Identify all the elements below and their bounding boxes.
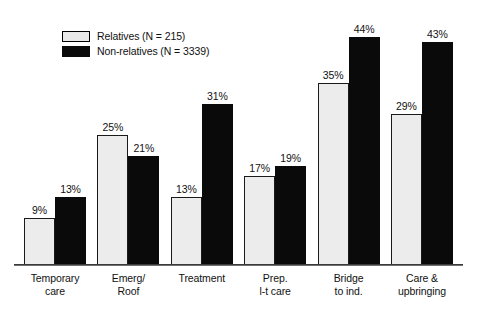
bar-value-label: 35% [323, 69, 344, 81]
grouped-bar-chart: Relatives (N = 215) Non-relatives (N = 3… [0, 0, 477, 312]
bar-group-temporary-care: 9% 13% [24, 8, 86, 264]
bar-value-label: 17% [249, 162, 270, 174]
bar-value-label: 13% [60, 183, 81, 195]
category-label-line: upbringing [391, 285, 453, 298]
plot-area: 9% 13% 25% 21% [18, 8, 459, 264]
category-label-emerg-roof: Emerg/ Roof [97, 272, 159, 297]
x-axis-baseline [14, 264, 463, 266]
bar-group-care-upbringing: 29% 43% [391, 8, 453, 264]
category-label-line: Prep. [244, 272, 306, 285]
bar-rect [275, 166, 306, 264]
category-label-temporary-care: Temporary care [24, 272, 86, 297]
bar-rect [24, 218, 55, 264]
bar-non-relatives-prep-lt-care: 19% [275, 8, 306, 264]
bar-non-relatives-emerg-roof: 21% [128, 8, 159, 264]
bar-rect [349, 37, 380, 264]
bar-rect [97, 135, 128, 264]
category-label-bridge-to-ind: Bridge to ind. [318, 272, 380, 297]
bar-value-label: 9% [32, 204, 47, 216]
category-label-line: Care & [391, 272, 453, 285]
category-label-prep-lt-care: Prep. l-t care [244, 272, 306, 297]
bar-rect [244, 176, 275, 264]
bar-non-relatives-care-upbringing: 43% [422, 8, 453, 264]
bar-non-relatives-bridge-to-ind: 44% [349, 8, 380, 264]
bar-value-label: 43% [427, 28, 448, 40]
bar-relatives-treatment: 13% [171, 8, 202, 264]
bar-rect [202, 104, 233, 264]
bar-rect [391, 114, 422, 264]
bar-value-label: 13% [176, 183, 197, 195]
bar-non-relatives-temporary-care: 13% [55, 8, 86, 264]
category-label-line: l-t care [244, 285, 306, 298]
bar-value-label: 19% [280, 152, 301, 164]
category-label-line: Roof [97, 285, 159, 298]
bar-relatives-bridge-to-ind: 35% [318, 8, 349, 264]
bar-relatives-temporary-care: 9% [24, 8, 55, 264]
bar-rect [318, 83, 349, 264]
bar-group-treatment: 13% 31% [171, 8, 233, 264]
bar-value-label: 21% [134, 142, 155, 154]
bar-group-prep-lt-care: 17% 19% [244, 8, 306, 264]
category-label-treatment: Treatment [171, 272, 233, 297]
bar-relatives-care-upbringing: 29% [391, 8, 422, 264]
bar-relatives-prep-lt-care: 17% [244, 8, 275, 264]
bar-non-relatives-treatment: 31% [202, 8, 233, 264]
bar-value-label: 31% [207, 90, 228, 102]
category-label-line: care [24, 285, 86, 298]
bar-rect [128, 156, 159, 264]
category-label-line: Treatment [171, 272, 233, 285]
category-label-line: Emerg/ [97, 272, 159, 285]
bar-groups: 9% 13% 25% 21% [18, 8, 459, 264]
category-label-line: Temporary [24, 272, 86, 285]
bar-group-bridge-to-ind: 35% 44% [318, 8, 380, 264]
category-label-line: to ind. [318, 285, 380, 298]
category-label-care-upbringing: Care & upbringing [391, 272, 453, 297]
bar-relatives-emerg-roof: 25% [97, 8, 128, 264]
bar-rect [171, 197, 202, 264]
category-label-line: Bridge [318, 272, 380, 285]
bar-rect [422, 42, 453, 264]
bar-value-label: 44% [354, 23, 375, 35]
x-axis-category-labels: Temporary care Emerg/ Roof Treatment Pre… [18, 272, 459, 297]
bar-value-label: 25% [103, 121, 124, 133]
bar-rect [55, 197, 86, 264]
bar-group-emerg-roof: 25% 21% [97, 8, 159, 264]
bar-value-label: 29% [396, 100, 417, 112]
